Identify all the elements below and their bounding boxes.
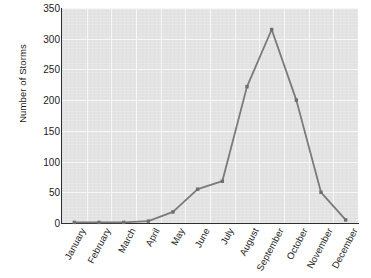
x-axis-tick-label: October [284,226,310,261]
data-point-marker [196,188,199,191]
data-point-marker [245,85,248,88]
y-axis-tick-labels: 050100150200250300350 [16,0,60,232]
x-axis-tick-label: May [168,226,186,247]
data-series-layer [62,8,358,223]
y-axis-tick-label: 150 [16,125,60,136]
storms-line-chart: Number of Storms 050100150200250300350 J… [0,0,371,278]
data-line [74,30,345,223]
data-point-marker [344,218,347,221]
data-point-marker [97,221,100,224]
x-axis-tick-labels: JanuaryFebruaryMarchAprilMayJuneJulyAugu… [62,226,358,278]
y-axis-tick-label: 200 [16,95,60,106]
x-axis-tick-label: April [143,226,162,248]
data-point-marker [171,210,174,213]
x-axis-tick-label: February [85,226,113,265]
y-axis-tick-label: 350 [16,3,60,14]
y-axis-tick-label: 0 [16,218,60,229]
data-point-marker [122,221,125,224]
data-point-marker [73,221,76,224]
data-point-marker [270,28,273,31]
data-point-marker [295,98,298,101]
x-axis-tick-label: January [62,226,88,261]
data-point-marker [221,180,224,183]
data-point-marker [319,191,322,194]
x-axis-tick-label: August [237,226,261,258]
x-axis-tick-label: June [192,226,211,250]
y-axis-tick-label: 50 [16,187,60,198]
x-axis-tick-label: July [218,226,236,246]
data-point-marker [147,219,150,222]
y-axis-tick-label: 250 [16,64,60,75]
y-axis-tick-label: 300 [16,33,60,44]
y-axis-tick-label: 100 [16,156,60,167]
x-axis-tick-label: March [115,226,137,255]
